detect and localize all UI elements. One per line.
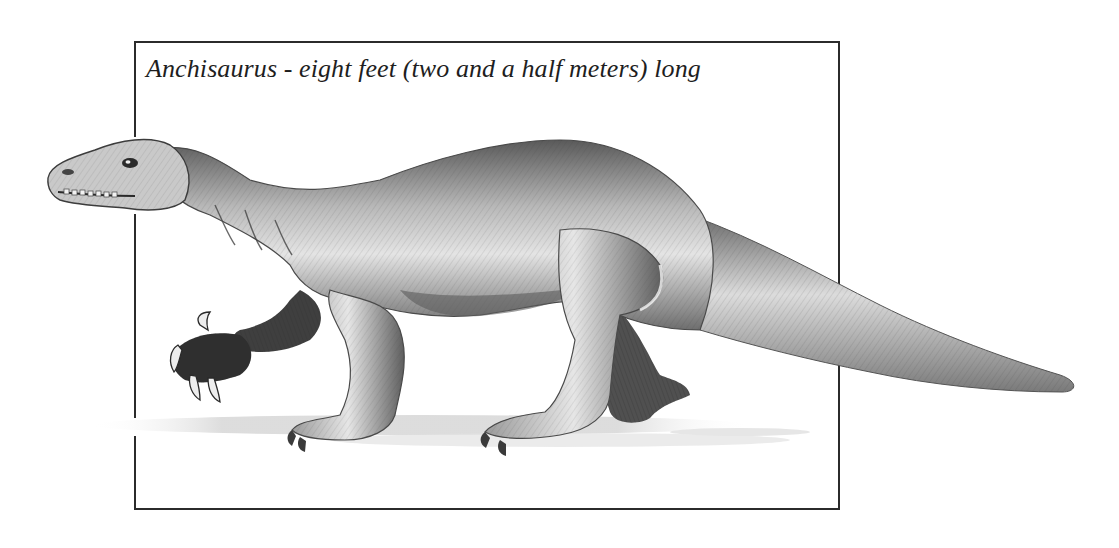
nostril [62,169,74,175]
raised-hand [171,312,252,402]
ground-shadow [90,415,810,447]
dinosaur-illustration [0,0,1119,548]
